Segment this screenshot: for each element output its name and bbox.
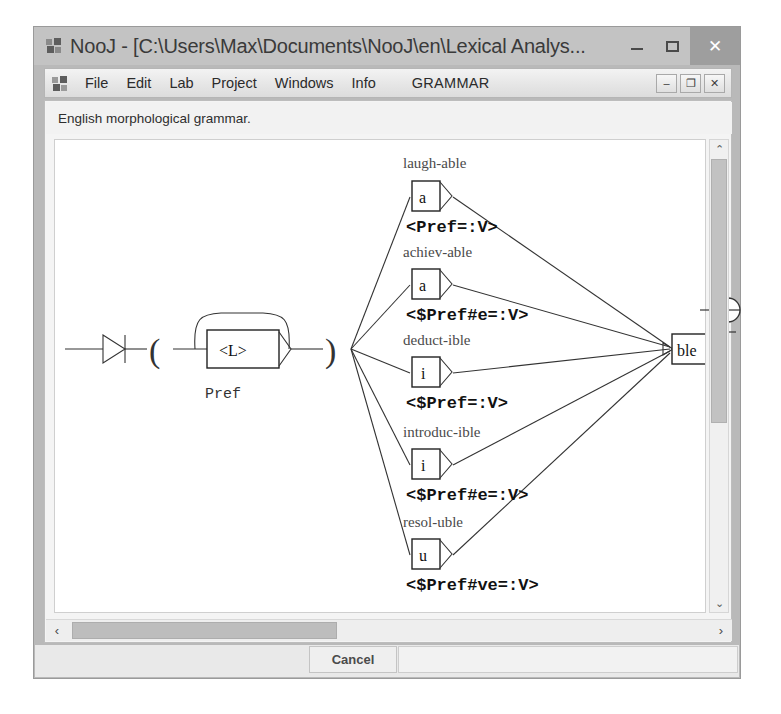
menu-item-edit[interactable]: Edit: [117, 73, 160, 94]
pref-variable-label: Pref: [205, 386, 241, 403]
group-open-paren: (: [149, 332, 160, 370]
mdi-restore-button[interactable]: ❐: [680, 74, 701, 93]
branch-node-5[interactable]: resol-uble u <$Pref#ve=:V>: [403, 514, 539, 595]
mdi-window-controls: – ❐ ✕: [656, 74, 725, 93]
grammar-canvas[interactable]: ( <L> Pref ): [54, 139, 706, 613]
branch-letter-3: i: [421, 365, 426, 382]
bottom-status-field: [398, 646, 738, 673]
menu-item-lab[interactable]: Lab: [160, 73, 202, 94]
menu-item-info[interactable]: Info: [343, 73, 385, 94]
branch-constraint-2: <$Pref#e=:V>: [406, 306, 528, 325]
graph-edges-left: [351, 197, 410, 555]
nooj-document-icon: [52, 76, 67, 91]
epsilon-box-label: <L>: [219, 342, 247, 359]
bottom-bar: Cancel: [35, 645, 739, 677]
close-button[interactable]: ✕: [690, 27, 740, 65]
branch-letter-5: u: [419, 547, 427, 564]
grammar-description-text: English morphological grammar.: [58, 111, 251, 126]
branch-example-5: resol-uble: [403, 514, 463, 530]
menu-item-project[interactable]: Project: [203, 73, 266, 94]
cancel-button[interactable]: Cancel: [309, 646, 397, 673]
branch-letter-1: a: [419, 189, 426, 206]
branch-letter-2: a: [419, 277, 426, 294]
pref-group[interactable]: <L> Pref: [173, 313, 323, 403]
nooj-main-window: NooJ - [C:\Users\Max\Documents\NooJ\en\L…: [33, 26, 741, 679]
branch-node-2[interactable]: achiev-able a <$Pref#e=:V>: [403, 244, 528, 325]
branch-example-1: laugh-able: [403, 155, 467, 171]
scroll-down-icon[interactable]: ⌄: [710, 594, 728, 612]
canvas-horizontal-scrollbar[interactable]: ‹ ›: [46, 619, 732, 641]
maximize-button[interactable]: [654, 27, 690, 65]
window-controls: ✕: [620, 27, 740, 65]
menu-item-grammar[interactable]: GRAMMAR: [403, 73, 499, 94]
branch-constraint-1: <Pref=:V>: [406, 218, 498, 237]
minimize-icon: [631, 48, 643, 50]
suffix-box-label: ble: [677, 342, 697, 359]
scroll-left-icon[interactable]: ‹: [48, 620, 66, 640]
group-close-paren: ): [325, 332, 336, 370]
title-bar: NooJ - [C:\Users\Max\Documents\NooJ\en\L…: [34, 27, 740, 65]
graph-start-marker: [65, 335, 147, 363]
menu-item-file[interactable]: File: [76, 73, 117, 94]
branch-letter-box-4[interactable]: [412, 449, 440, 479]
branch-constraint-4: <$Pref#e=:V>: [406, 486, 528, 505]
scroll-up-icon[interactable]: ⌃: [710, 140, 728, 158]
branch-example-2: achiev-able: [403, 244, 472, 260]
mdi-minimize-button[interactable]: –: [656, 74, 677, 93]
branch-node-4[interactable]: introduc-ible i <$Pref#e=:V>: [403, 424, 528, 505]
horizontal-scroll-thumb[interactable]: [72, 622, 337, 639]
branch-constraint-3: <$Pref=:V>: [406, 394, 508, 413]
menu-bar: File Edit Lab Project Windows Info GRAMM…: [44, 68, 732, 98]
branch-constraint-5: <$Pref#ve=:V>: [406, 576, 539, 595]
menu-item-windows[interactable]: Windows: [266, 73, 343, 94]
window-title: NooJ - [C:\Users\Max\Documents\NooJ\en\L…: [70, 35, 586, 58]
maximize-icon: [666, 41, 679, 52]
mdi-close-button[interactable]: ✕: [704, 74, 725, 93]
branch-example-4: introduc-ible: [403, 424, 481, 440]
grammar-description-strip: English morphological grammar.: [46, 102, 732, 134]
screenshot-root: NooJ - [C:\Users\Max\Documents\NooJ\en\L…: [0, 0, 781, 714]
branch-node-1[interactable]: laugh-able a <Pref=:V>: [403, 155, 498, 237]
scroll-right-icon[interactable]: ›: [712, 620, 730, 640]
nooj-app-icon: [46, 38, 62, 54]
grammar-graph: ( <L> Pref ): [55, 140, 705, 612]
branch-example-3: deduct-ible: [403, 332, 471, 348]
vertical-scroll-thumb[interactable]: [711, 159, 727, 423]
branch-letter-4: i: [421, 457, 426, 474]
grammar-document-frame: English morphological grammar. (: [44, 100, 732, 643]
canvas-vertical-scrollbar[interactable]: ⌃ ⌄: [709, 139, 729, 613]
minimize-button[interactable]: [620, 27, 654, 65]
branch-letter-box-3[interactable]: [412, 357, 440, 387]
